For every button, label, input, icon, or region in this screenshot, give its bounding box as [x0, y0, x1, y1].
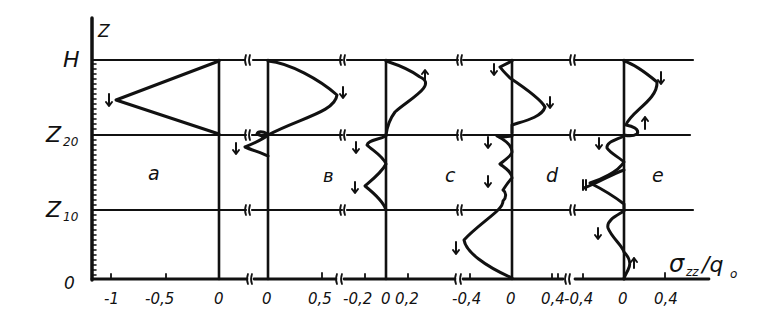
arrow-e5 [595, 228, 601, 239]
x-axis-label: σ zz /q o [669, 250, 737, 281]
svg-text:0,4: 0,4 [654, 290, 678, 308]
curve-a [116, 61, 219, 134]
y-label-z20: Z [45, 122, 62, 147]
y-label-H: H [63, 47, 80, 72]
arrow-e3 [596, 138, 602, 149]
arrow-c2 [353, 142, 359, 153]
x-tick-labels: -1 -0,5 0 0 0,5 -0,2 0 0,2 -0,4 0 0,4 -0… [104, 290, 678, 308]
arrow-c3 [352, 182, 358, 193]
svg-text:o: o [730, 267, 737, 281]
svg-text:0: 0 [506, 290, 516, 308]
arrow-d [491, 64, 497, 75]
curve-c [386, 61, 426, 135]
y-label-z20-sub: 20 [63, 135, 79, 149]
svg-text:0: 0 [262, 290, 272, 308]
svg-text:0: 0 [618, 290, 628, 308]
svg-text:zz: zz [685, 265, 699, 279]
y-label-z10: Z [45, 197, 62, 222]
panel-letter-a: a [148, 162, 160, 184]
svg-text:-1: -1 [104, 290, 119, 308]
y-label-z10-sub: 10 [63, 210, 79, 224]
svg-text:/q: /q [700, 252, 723, 277]
z-axis-label: Z [97, 21, 110, 41]
arrow-e [658, 72, 664, 84]
arrow-d3 [485, 137, 491, 148]
panel-letter-e: e [652, 164, 664, 186]
arrow-e2 [642, 117, 648, 129]
curve-d-deep [584, 170, 624, 188]
arrow-b [340, 87, 346, 98]
arrow-d2 [547, 97, 553, 108]
svg-text:-0,4: -0,4 [564, 290, 593, 308]
svg-text:0,5: 0,5 [308, 290, 332, 308]
curve-e [624, 61, 657, 136]
curve-c-lower [365, 136, 386, 210]
arrow-d4 [485, 176, 491, 187]
panel-zero-lines [219, 60, 624, 279]
panel-letter-d: d [546, 164, 559, 186]
arrow-e6 [631, 258, 637, 268]
curve-d-lower [464, 136, 512, 278]
svg-text:-0,4: -0,4 [452, 290, 481, 308]
curve-b [268, 61, 337, 135]
stress-distribution-figure: Z H Z 20 Z 10 0 a в c d e -1 -0,5 0 0 0,… [0, 0, 782, 331]
panel-letter-b: в [323, 165, 334, 186]
svg-text:0,2: 0,2 [395, 290, 419, 308]
svg-text:0,4: 0,4 [541, 290, 565, 308]
svg-text:0: 0 [214, 290, 224, 308]
svg-text:-0,5: -0,5 [145, 290, 174, 308]
arrow-b2 [233, 143, 239, 154]
svg-text:σ: σ [669, 250, 685, 278]
y-label-zero: 0 [64, 273, 75, 293]
svg-text:0: 0 [381, 290, 391, 308]
curve-e-lower2 [608, 211, 630, 279]
arrow-a [106, 94, 112, 106]
curve-d [500, 61, 545, 133]
arrow-d5 [453, 242, 459, 254]
svg-text:-0,2: -0,2 [343, 290, 372, 308]
panel-letter-c: c [445, 164, 456, 186]
